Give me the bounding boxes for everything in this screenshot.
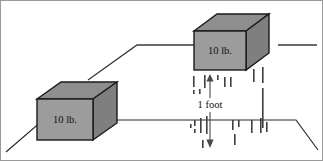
speckle-dash [232, 120, 234, 130]
physics-diagram: 10 lb. 10 lb. 1 foot [0, 0, 323, 161]
height-measurement: 1 foot [198, 74, 223, 148]
speckle-dash [199, 89, 201, 94]
height-arrow-down-head [206, 140, 213, 149]
speckle-dash [266, 122, 268, 132]
upper-block-weight-label: 10 lb. [208, 45, 232, 56]
speckle-dash [204, 75, 206, 88]
lower-block: 10 lb. [37, 82, 117, 140]
speckle-dash [238, 120, 240, 127]
speckle-dash [194, 120, 196, 126]
speckle-dash [200, 118, 202, 133]
height-measure-label: 1 foot [198, 99, 223, 110]
speckle-dash [206, 116, 208, 134]
speckle-dash [193, 76, 195, 87]
speckle-dash [234, 134, 236, 145]
upper-block: 10 lb. [194, 14, 269, 70]
speckle-dash [262, 67, 264, 83]
speckle-dash [262, 88, 264, 128]
speckle-dash [202, 140, 204, 148]
height-arrow-up-head [206, 74, 213, 82]
speckle-dash [193, 90, 195, 94]
lower-block-weight-label: 10 lb. [53, 114, 77, 125]
figure-container: 10 lb. 10 lb. 1 foot [0, 0, 323, 161]
speckle-dash [260, 118, 262, 133]
speckle-dash [253, 69, 255, 82]
speckle-dash [251, 120, 253, 133]
speckle-dash [224, 77, 226, 87]
speckle-dash [190, 124, 192, 128]
speckle-dash [194, 129, 196, 133]
speckle-dash [217, 75, 219, 80]
speckle-dash [230, 77, 232, 87]
